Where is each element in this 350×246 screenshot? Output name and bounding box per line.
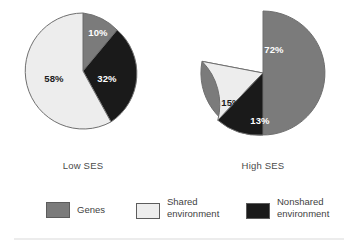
pie-low-ses-svg: 10% 32% 58% [22, 10, 144, 132]
pie-high-ses-svg: 72% 15% 13% [198, 8, 328, 138]
slice-value-genes: 10% [88, 27, 108, 38]
top-edge-artifact [0, 0, 350, 4]
slice-value-shared: 58% [44, 73, 64, 84]
slice-value-nonshared: 32% [97, 73, 117, 84]
pie-chart-low-ses: 10% 32% 58% Low SES [22, 10, 144, 132]
slice-value-genes: 72% [264, 44, 284, 55]
legend-swatch-nonshared-environment [246, 203, 270, 219]
legend-swatch-genes [46, 202, 70, 218]
slice-value-shared: 15% [221, 97, 241, 108]
legend-item-nonshared-environment: Nonshared environment [246, 196, 329, 219]
slice-value-nonshared: 13% [250, 115, 270, 126]
legend-item-shared-environment: Shared environment [136, 196, 219, 219]
pie-high-ses-label: High SES [198, 160, 328, 171]
chart-legend: Genes Shared environment Nonshared envir… [0, 196, 350, 230]
legend-item-genes: Genes [46, 202, 105, 218]
bottom-divider [14, 238, 344, 240]
legend-swatch-shared-environment [136, 203, 160, 219]
pie-chart-figure: 10% 32% 58% Low SES 72% 15% 13% High SES… [0, 0, 350, 246]
legend-label-genes: Genes [77, 204, 105, 216]
pie-low-ses-label: Low SES [22, 160, 144, 171]
legend-label-shared-environment: Shared environment [167, 196, 219, 219]
pie-chart-high-ses: 72% 15% 13% High SES [198, 8, 328, 138]
legend-label-nonshared-environment: Nonshared environment [277, 196, 329, 219]
